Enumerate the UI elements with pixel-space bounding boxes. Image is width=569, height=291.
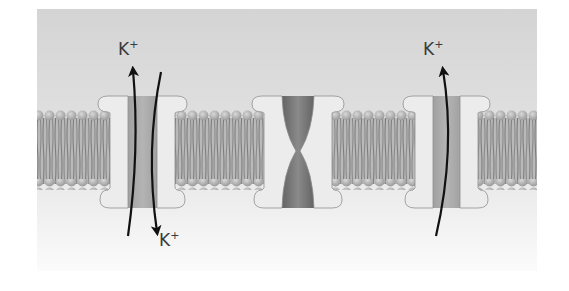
ion-channel-diagram: K+ K+ K+ bbox=[0, 0, 569, 291]
closed-channel-middle bbox=[252, 96, 344, 208]
